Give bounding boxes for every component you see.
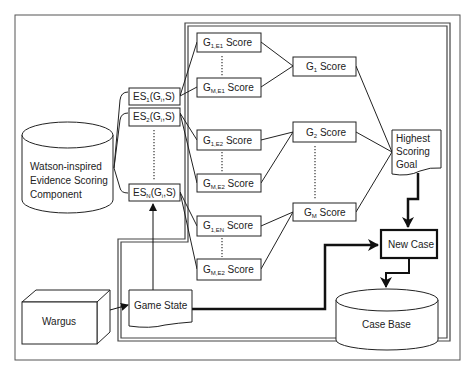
game-state: Game State (129, 290, 192, 327)
new-case: New Case (381, 230, 437, 258)
svg-text:Scoring: Scoring (396, 146, 430, 157)
svg-text:ES2(Gi,S): ES2(Gi,S) (133, 111, 175, 123)
case-base: Case Base (336, 289, 438, 350)
goal-evidence-score-2: GM,E1 Score (197, 78, 261, 97)
goal-evidence-to-goal-connectors (261, 42, 293, 269)
svg-text:New Case: New Case (388, 239, 435, 250)
goal-score-m: GM Score (293, 203, 356, 221)
goal-score-2: G2 Score (293, 122, 356, 142)
newcase-to-casebase-arrow (386, 258, 409, 287)
watson-component: Watson-inspired Evidence Scoring Compone… (22, 122, 113, 213)
svg-text:ESN(Gi,S): ESN(Gi,S) (133, 187, 176, 199)
watson-label-3: Component (30, 189, 82, 200)
svg-text:Goal: Goal (396, 159, 417, 170)
goal-evidence-score-6: GM,E2 Score (197, 259, 261, 280)
svg-text:G1,E2 Score: G1,E2 Score (203, 135, 252, 147)
goal-evidence-score-4: GM,E2 Score (197, 174, 261, 192)
goal-evidence-score-1: G1,E1 Score (197, 33, 261, 52)
svg-text:GM Score: GM Score (304, 207, 346, 219)
evidence-scorer-esn: ESN(Gi,S) (129, 184, 180, 201)
svg-text:Case Base: Case Base (362, 319, 411, 330)
goal-to-highest-connectors (356, 66, 392, 212)
watson-label-2: Evidence Scoring (30, 175, 108, 186)
evidence-scorer-es1: ES1(Gi,S) (129, 88, 180, 105)
svg-text:Wargus: Wargus (42, 316, 76, 327)
wargus-to-gamestate-arrow (110, 305, 128, 310)
svg-text:Highest: Highest (396, 133, 430, 144)
highest-to-newcase-arrow (408, 173, 418, 227)
goal-score-1: G1 Score (293, 57, 356, 76)
svg-text:GM,E2 Score: GM,E2 Score (203, 178, 254, 190)
svg-text:G1,E1 Score: G1,E1 Score (203, 37, 252, 49)
goal-evidence-score-5: G1,EN Score (197, 216, 261, 236)
svg-text:G2 Score: G2 Score (306, 127, 346, 139)
svg-text:GM,E2 Score: GM,E2 Score (203, 264, 254, 276)
goal-evidence-score-3: G1,E2 Score (197, 130, 261, 150)
watson-es-connectors (114, 92, 128, 193)
svg-text:Game State: Game State (134, 300, 188, 311)
highest-scoring-goal: Highest Scoring Goal (392, 130, 441, 175)
evidence-scorer-es2: ES2(Gi,S) (129, 108, 180, 126)
architecture-diagram: Watson-inspired Evidence Scoring Compone… (0, 0, 473, 375)
svg-text:G1 Score: G1 Score (306, 61, 346, 73)
svg-text:ES1(Gi,S): ES1(Gi,S) (133, 91, 175, 103)
svg-text:GM,E1 Score: GM,E1 Score (203, 82, 254, 94)
wargus: Wargus (22, 290, 110, 344)
watson-label-1: Watson-inspired (30, 161, 102, 172)
